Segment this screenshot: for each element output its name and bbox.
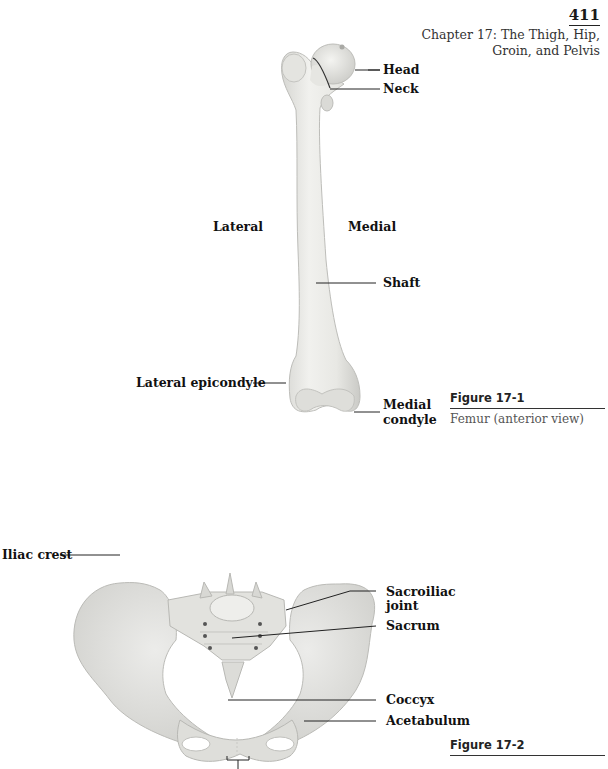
pelvis-illustration [74,573,375,769]
figure-2-title: Figure 17-2 [450,738,524,752]
figure-1-caption: Femur (anterior view) [450,412,584,426]
label-acetabulum: Acetabulum [386,714,470,728]
label-neck: Neck [383,82,419,96]
label-head: Head [383,63,420,77]
label-sacroiliac-joint-line1: Sacroiliac [386,585,456,599]
figure-2-rule [450,755,605,756]
figure-1-rule [450,408,605,409]
orientation-medial: Medial [348,220,396,234]
figure-1-title: Figure 17-1 [450,391,524,405]
label-shaft: Shaft [383,276,420,290]
label-coccyx: Coccyx [386,693,434,707]
label-medial-condyle-line1: Medial [383,398,431,412]
label-medial-condyle-line2: condyle [383,413,437,427]
label-iliac-crest: Iliac crest [2,548,72,562]
label-sacrum: Sacrum [386,619,440,633]
femur-illustration [0,0,608,769]
label-lateral-epicondyle: Lateral epicondyle [136,376,266,390]
orientation-lateral: Lateral [213,220,263,234]
label-sacroiliac-joint-line2: joint [386,599,418,613]
